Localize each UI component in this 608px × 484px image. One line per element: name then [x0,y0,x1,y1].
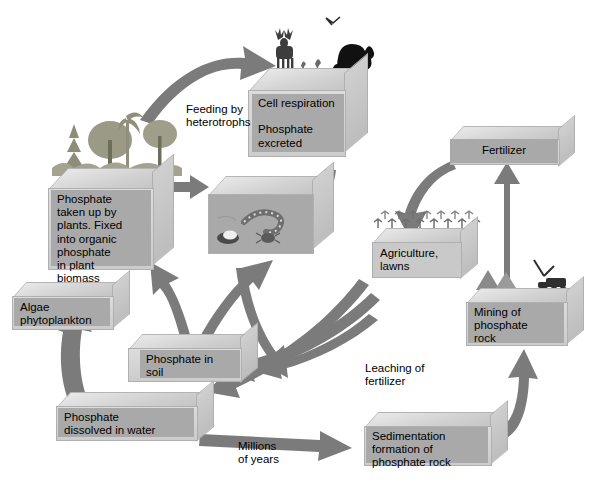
decomposers-scene-icon [210,196,310,250]
water-label: Phosphate dissolved in water [58,408,194,437]
block-agriculture[interactable]: Agriculture, lawns [372,228,480,286]
plants-side-face [152,154,174,266]
plants-label: Phosphate taken up by plants. Fixed into… [51,190,151,266]
block-water[interactable]: Phosphate dissolved in water [56,392,220,450]
agriculture-label: Agriculture, lawns [374,244,460,274]
block-fertilizer[interactable]: Fertilizer [450,126,578,174]
soil-label: Phosphate in soil [140,350,240,378]
block-consumers[interactable]: Cell respiration Phosphate excreted [248,68,370,173]
consumers-label: Cell respiration Phosphate excreted [252,94,344,152]
block-algae[interactable]: Algae phytoplankton [12,282,134,336]
annotation-millions-of-years: Millions of years [238,440,308,467]
fertilizer-label: Fertilizer [450,139,558,163]
annotation-feeding-by-heterotrophs: Feeding by heterotrophs [186,103,264,130]
block-plants[interactable]: Phosphate taken up by plants. Fixed into… [48,168,176,280]
block-soil[interactable]: Phosphate in soil [128,334,264,390]
block-sedimentation[interactable]: Sedimentation formation of phosphate roc… [364,412,514,474]
annotation-leaching-of-fertilizer: Leaching of fertilizer [365,362,447,389]
block-mining[interactable]: Mining of phosphate rock [466,288,588,354]
sedimentation-label: Sedimentation formation of phosphate roc… [366,427,488,463]
phosphorus-cycle-diagram: Cell respiration Phosphate excreted [0,0,608,484]
arrow-mining-to-fertilizer [494,162,520,285]
algae-label: Algae phytoplankton [14,298,110,326]
mining-label: Mining of phosphate rock [468,303,564,343]
block-decomposers[interactable] [208,176,336,268]
